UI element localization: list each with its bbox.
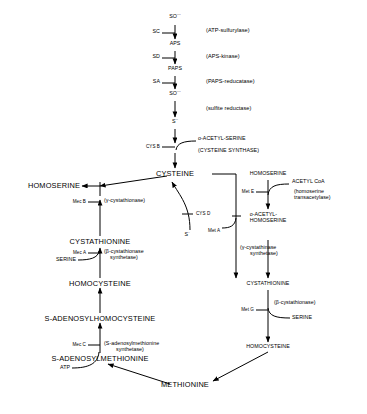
gene-mec-a: Mec A [73,250,86,255]
enzyme-beta-cystathionase-synthetase: (β-cystathionasesynthetase) [104,248,144,261]
metabolite-atp: ATP [60,365,70,371]
gene-sa: SA [153,79,160,85]
metabolite-serine-right: SERINE [292,315,312,321]
enzyme-sulfite-reductase: (sulfite reductase) [206,105,251,111]
metabolite-sulfide: S-- [172,119,178,125]
metabolite-methionine: METHIONINE [161,381,209,389]
metabolite-homoserine-left: HOMOSERINE [28,182,80,190]
metabolite-s-adenosylmethionine: S-ADENOSYLMETHIONINE [51,355,148,363]
gene-mec-c: Mec C [72,342,86,347]
gene-met-a: Met A [208,228,220,233]
pathway-diagram: SO--- SC (ATP-sulfurylase) APS SD (APS-k… [0,0,367,414]
enzyme-beta-cystathionase: (β-cystathionase) [274,300,316,306]
enzyme-homoserine-transacetylase: (homoserinetransacetylase) [294,188,331,201]
metabolite-sulfate: SO--- [169,14,181,20]
gene-sc: SC [153,29,160,35]
metabolite-cystathionine-left: CYSTATHIONINE [70,238,131,246]
enzyme-atp-sulfurylase: (ATP-sulfurylase) [206,27,250,33]
gene-cys-d: CYS D [196,211,210,216]
metabolite-sulfide-branch: S- [185,232,190,238]
gene-sd: SD [153,54,160,60]
pathway-arrows [0,0,367,414]
metabolite-o-acetyl-homoserine: o-ACETYL-HOMOSERINE [250,211,287,224]
metabolite-homocysteine-left: HOMOCYSTEINE [69,280,131,288]
enzyme-aps-kinase: (APS-kinase) [206,53,240,59]
metabolite-s-adenosylhomocysteine: S-ADENOSYLHOMOCYSTEINE [45,315,156,323]
metabolite-homoserine-right: HOMOSERINE [250,171,287,177]
enzyme-sam-synthetase: (S-adenosylmethioninesynthetase) [104,340,159,353]
metabolite-cystathionine-right: CYSTATHIONINE [247,281,290,287]
metabolite-paps: PAPS [168,66,182,72]
metabolite-o-acetyl-serine: o-ACETYL-SERINE [198,136,246,142]
enzyme-gamma-cystathinase-synthetase: (γ-cystathinasesynthetase) [240,244,278,257]
metabolite-sulfite: SO--- [169,91,181,97]
metabolite-serine-left: SERINE [56,257,76,263]
enzyme-paps-reductase: (PAPS-reducatase) [206,78,255,84]
enzyme-cysteine-synthase: (CYSTEINE SYNTHASE) [198,148,259,154]
metabolite-acetyl-coa: ACETYL CoA [292,179,325,185]
gene-cys-b: CYS B [146,144,160,149]
metabolite-cysteine: CYSTEINE [156,170,194,178]
gene-met-e: Met E [242,189,254,194]
gene-met-g: Met G [241,307,254,312]
metabolite-homocysteine-right: HOMOCYSTEINE [246,344,290,350]
enzyme-gamma-cystathionase: (γ-cystathionase) [104,198,145,204]
gene-mec-b: Mec B [73,199,86,204]
metabolite-aps: APS [170,41,181,47]
